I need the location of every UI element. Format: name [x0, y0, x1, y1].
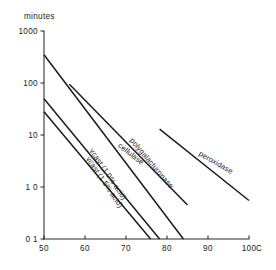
y-axis-caption: minutes — [24, 12, 55, 21]
x-tick-label: 90 — [203, 244, 213, 253]
x-tick-label: 80 — [162, 244, 172, 253]
y-tick-label: 10 — [28, 131, 38, 140]
data-series-labels: vcast (1 5% acid)vcast (1 0% acid)cellul… — [84, 136, 235, 210]
y-axis-tick-labels: 1000100101 00 1 — [18, 27, 38, 244]
y-tick-label: 1 0 — [26, 183, 39, 192]
x-tick-label: 60 — [80, 244, 90, 253]
x-tick-label: 50 — [39, 244, 49, 253]
x-axis-tick-labels: 5060708090100 — [39, 244, 256, 253]
chart-container: minutes 1000100101 00 1 5060708090100 C … — [0, 0, 276, 270]
series-label-peroxidase: peroxidase — [197, 149, 235, 176]
x-tick-label: 100 — [242, 244, 257, 253]
data-series-lines — [44, 55, 249, 239]
y-tick-label: 1000 — [18, 27, 38, 36]
series-label-polygalacturonase: polygalacturonase — [128, 136, 176, 190]
series-line-cellulase — [44, 55, 183, 239]
thermal-inactivation-chart: minutes 1000100101 00 1 5060708090100 C … — [0, 0, 276, 270]
y-tick-label: 100 — [23, 79, 38, 88]
x-tick-label: 70 — [121, 244, 131, 253]
y-tick-label: 0 1 — [26, 235, 39, 244]
x-axis-unit-label: C — [256, 244, 262, 253]
